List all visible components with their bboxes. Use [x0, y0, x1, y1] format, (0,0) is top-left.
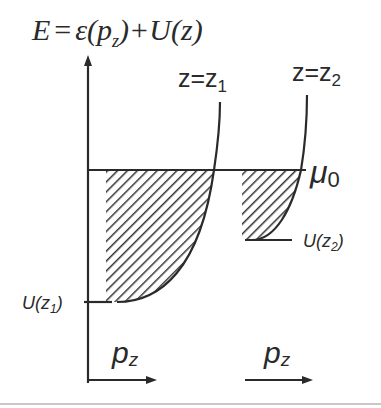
pz-label-2: pz	[263, 336, 291, 370]
mu0-label: μ0	[309, 154, 340, 192]
filled-states-z2	[238, 165, 308, 245]
formula-title: E=ε(pz)+U(z)	[31, 13, 203, 51]
diagram-canvas: E=ε(pz)+U(z) z=z1 z=z2 μ0 U(z2) U(z1) pz	[0, 0, 381, 408]
curve-label-z1: z=z1	[178, 64, 227, 96]
pz-label-1: pz	[111, 336, 139, 370]
U-z2-label: U(z2)	[303, 231, 344, 254]
momentum-axis-2-arrow-icon	[302, 376, 313, 384]
energy-axis-arrow-icon	[84, 55, 92, 66]
U-z1-label: U(z1)	[22, 293, 63, 316]
curve-label-z2: z=z2	[292, 58, 341, 90]
momentum-axis-1-arrow-icon	[146, 376, 157, 384]
